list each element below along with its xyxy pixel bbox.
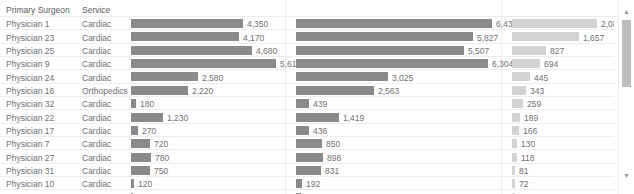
bar-value-label: 5,827 xyxy=(477,33,498,43)
bar-value-label: 343 xyxy=(530,86,544,96)
bar-value-label: 72 xyxy=(519,179,528,189)
cell-service: Cardiac xyxy=(82,59,111,69)
table-row[interactable]: Physician 9Cardiac5,6106,304694 xyxy=(0,57,614,70)
bar[interactable] xyxy=(296,86,374,95)
cell-service: Cardiac xyxy=(82,166,111,176)
bar[interactable] xyxy=(131,86,188,95)
bar-value-label: 780 xyxy=(155,153,169,163)
bar[interactable] xyxy=(512,139,517,148)
column-header-primary-surgeon[interactable]: Primary Surgeon xyxy=(6,5,70,15)
bar[interactable] xyxy=(512,32,579,41)
bar[interactable] xyxy=(296,32,473,41)
bar[interactable] xyxy=(131,193,133,194)
bar[interactable] xyxy=(296,99,309,108)
bar-value-label: 4,680 xyxy=(256,46,277,56)
table-row[interactable]: Physician 25Cardiac4,6805,507827 xyxy=(0,44,614,57)
table-row[interactable]: Physician 20Cardiac6017464 xyxy=(0,190,614,194)
table-row[interactable]: Physician 1Cardiac4,3506,4372,087 xyxy=(0,17,614,30)
bar-value-label: 174 xyxy=(305,193,319,194)
bar-chart-table: Primary Surgeon Service Physician 1Cardi… xyxy=(0,0,634,194)
chevron-down-icon[interactable]: ▼ xyxy=(619,168,634,183)
bar[interactable] xyxy=(131,153,151,162)
table-row[interactable]: Physician 7Cardiac720850130 xyxy=(0,137,614,150)
bar-value-label: 2,220 xyxy=(192,86,213,96)
bar[interactable] xyxy=(296,179,302,188)
bar[interactable] xyxy=(512,46,546,55)
bar-value-label: 1,419 xyxy=(343,113,364,123)
bar-value-label: 166 xyxy=(523,126,537,136)
bar-value-label: 436 xyxy=(313,126,327,136)
bar[interactable] xyxy=(296,72,388,81)
bar[interactable] xyxy=(131,46,252,55)
cell-service: Cardiac xyxy=(82,19,111,29)
bar[interactable] xyxy=(131,19,243,28)
bar[interactable] xyxy=(512,153,517,162)
bar[interactable] xyxy=(296,46,464,55)
bar-value-label: 192 xyxy=(306,179,320,189)
bar[interactable] xyxy=(131,99,136,108)
bar-value-label: 118 xyxy=(521,153,535,163)
cell-primary-surgeon: Physician 1 xyxy=(6,19,49,29)
table-row[interactable]: Physician 10Cardiac12019272 xyxy=(0,177,614,190)
bar[interactable] xyxy=(131,72,198,81)
bar-value-label: 270 xyxy=(142,126,156,136)
bar[interactable] xyxy=(512,59,540,68)
cell-primary-surgeon: Physician 31 xyxy=(6,166,54,176)
bar[interactable] xyxy=(131,32,239,41)
bar[interactable] xyxy=(512,19,597,28)
bar-value-label: 6,304 xyxy=(492,59,513,69)
table-header: Primary Surgeon Service xyxy=(0,0,634,17)
bar[interactable] xyxy=(131,59,276,68)
table-row[interactable]: Physician 17Cardiac270436166 xyxy=(0,124,614,137)
bar[interactable] xyxy=(131,179,134,188)
table-row[interactable]: Physician 16Orthopedics2,2202,563343 xyxy=(0,84,614,97)
chevron-up-icon[interactable]: ▲ xyxy=(619,4,634,19)
table-row[interactable]: Physician 23Cardiac4,1705,8271,657 xyxy=(0,30,614,43)
cell-primary-surgeon: Physician 25 xyxy=(6,46,54,56)
bar-value-label: 4,350 xyxy=(247,19,268,29)
bar[interactable] xyxy=(131,126,138,135)
bar[interactable] xyxy=(131,113,163,122)
cell-service: Cardiac xyxy=(82,73,111,83)
column-header-service[interactable]: Service xyxy=(82,5,110,15)
bar[interactable] xyxy=(131,166,150,175)
cell-service: Cardiac xyxy=(82,113,111,123)
bar[interactable] xyxy=(512,86,526,95)
bar-value-label: 827 xyxy=(550,46,564,56)
cell-service: Cardiac xyxy=(82,153,111,163)
bar[interactable] xyxy=(512,99,523,108)
bar-value-label: 445 xyxy=(534,73,548,83)
bar[interactable] xyxy=(296,126,309,135)
bar-value-label: 259 xyxy=(527,99,541,109)
bar[interactable] xyxy=(512,113,520,122)
cell-primary-surgeon: Physician 9 xyxy=(6,59,49,69)
bar[interactable] xyxy=(296,166,321,175)
table-row[interactable]: Physician 22Cardiac1,2301,419189 xyxy=(0,110,614,123)
table-row[interactable]: Physician 24Cardiac2,5803,025445 xyxy=(0,70,614,83)
table-row[interactable]: Physician 27Cardiac780898118 xyxy=(0,150,614,163)
bar[interactable] xyxy=(296,19,492,28)
table-row[interactable]: Physician 31Cardiac75083181 xyxy=(0,164,614,177)
bar[interactable] xyxy=(512,193,515,194)
bar-value-label: 2,580 xyxy=(202,73,223,83)
bar-value-label: 850 xyxy=(326,139,340,149)
scrollbar-thumb[interactable] xyxy=(622,20,631,87)
bar[interactable] xyxy=(296,59,488,68)
bar[interactable] xyxy=(512,126,519,135)
bar[interactable] xyxy=(512,179,515,188)
cell-service: Cardiac xyxy=(82,126,111,136)
bar[interactable] xyxy=(296,193,301,194)
bar-value-label: 120 xyxy=(138,179,152,189)
bar[interactable] xyxy=(296,153,323,162)
vertical-scrollbar[interactable]: ▲ ▼ xyxy=(618,0,634,194)
bar[interactable] xyxy=(512,72,530,81)
bar[interactable] xyxy=(296,113,339,122)
bar[interactable] xyxy=(296,139,322,148)
bar-value-label: 81 xyxy=(519,166,528,176)
bar-value-label: 1,230 xyxy=(167,113,188,123)
bar[interactable] xyxy=(131,139,150,148)
table-row[interactable]: Physician 32Cardiac180439259 xyxy=(0,97,614,110)
bar-value-label: 5,507 xyxy=(468,46,489,56)
bar[interactable] xyxy=(512,166,515,175)
bar-value-label: 130 xyxy=(521,139,535,149)
